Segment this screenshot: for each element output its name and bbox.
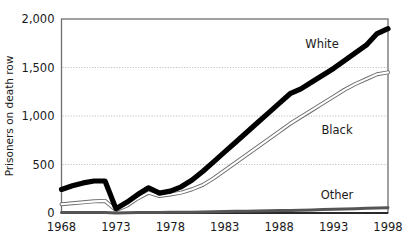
series-label-white: White: [305, 37, 338, 51]
x-tick-label: 1978: [156, 220, 185, 234]
y-tick-label: 0: [47, 206, 54, 220]
y-tick-label: 1,000: [22, 109, 55, 123]
line-chart-svg: 05001,0001,5002,000 19681973197819831988…: [0, 0, 403, 248]
series-label-other: Other: [321, 188, 354, 202]
series-label-black: Black: [321, 123, 352, 137]
series-white: [62, 29, 389, 209]
x-tick-label: 1988: [265, 220, 294, 234]
x-tick-label: 1973: [101, 220, 130, 234]
y-axis-tick-labels: 05001,0001,5002,000: [22, 12, 55, 220]
chart-container: 05001,0001,5002,000 19681973197819831988…: [0, 0, 403, 248]
series-lines: [62, 29, 389, 213]
y-tick-label: 1,500: [22, 61, 55, 75]
x-tick-label: 1998: [373, 220, 402, 234]
x-axis-tick-labels: 1968197319781983198819931998: [47, 220, 403, 234]
y-tick-label: 2,000: [22, 12, 55, 26]
y-axis-title: Prisoners on death row: [3, 55, 15, 176]
series-line-white: [62, 29, 389, 209]
y-axis-title-label: Prisoners on death row: [3, 55, 15, 176]
x-tick-label: 1993: [319, 220, 348, 234]
x-tick-label: 1983: [210, 220, 239, 234]
y-tick-label: 500: [33, 158, 55, 172]
x-tick-label: 1968: [47, 220, 76, 234]
